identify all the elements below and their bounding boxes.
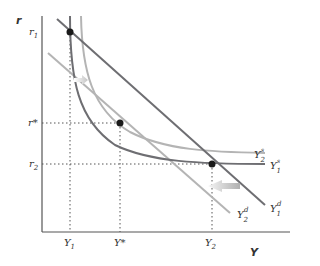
tick-r1: r1: [29, 26, 38, 40]
tick-ystar: Y*: [114, 237, 126, 248]
guide-lines: [42, 32, 212, 232]
label-y1s: Y1s: [270, 157, 281, 175]
point-r1-y1: [67, 29, 74, 36]
curve-y1s: [70, 16, 265, 164]
point-rstar-ystar: [117, 120, 124, 127]
tick-y1: Y1: [64, 237, 75, 251]
x-axis-label: Y: [250, 246, 259, 259]
label-y1d: Y1d: [270, 200, 282, 218]
label-y2d: Y2d: [237, 206, 249, 224]
point-r2-y2: [209, 161, 216, 168]
shift-left-arrow-icon: [208, 180, 240, 192]
curve-y2s: [81, 16, 265, 153]
tick-y2: Y2: [205, 237, 217, 251]
tick-rstar: r*: [28, 117, 38, 128]
supply-demand-diagram: r Y r1 r*: [0, 0, 320, 266]
label-y2s: Y2s: [254, 146, 266, 164]
curve-y1d: [57, 19, 265, 205]
y-axis-label: r: [16, 14, 22, 27]
tick-r2: r2: [29, 158, 39, 172]
